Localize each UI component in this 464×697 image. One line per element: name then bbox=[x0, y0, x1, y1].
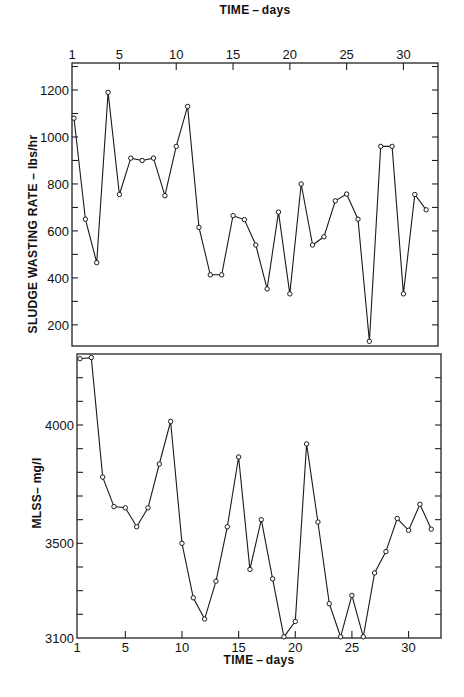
data-point-marker bbox=[406, 528, 410, 532]
data-point-marker bbox=[248, 567, 252, 571]
data-point-marker bbox=[242, 217, 246, 221]
data-point-marker bbox=[72, 116, 76, 120]
y-tick-label: 4000 bbox=[45, 418, 74, 433]
data-point-marker bbox=[270, 577, 274, 581]
y-tick-label: 1200 bbox=[40, 83, 69, 98]
data-point-marker bbox=[197, 225, 201, 229]
data-point-marker bbox=[89, 355, 93, 359]
data-point-marker bbox=[413, 192, 417, 196]
data-point-marker bbox=[288, 292, 292, 296]
x-tick-label: 30 bbox=[401, 640, 415, 655]
x-tick-label: 20 bbox=[283, 47, 297, 62]
x-tick-label: 5 bbox=[122, 640, 129, 655]
x-tick-label: 10 bbox=[175, 640, 189, 655]
x-tick-label: 1 bbox=[68, 47, 75, 62]
plot-frame bbox=[77, 354, 441, 638]
data-series-line bbox=[74, 92, 426, 341]
data-point-marker bbox=[78, 357, 82, 361]
y-tick-label: 3100 bbox=[45, 631, 74, 646]
data-point-marker bbox=[163, 193, 167, 197]
data-point-marker bbox=[304, 442, 308, 446]
data-point-marker bbox=[282, 635, 286, 639]
data-point-marker bbox=[418, 502, 422, 506]
data-point-marker bbox=[265, 287, 269, 291]
data-point-marker bbox=[83, 217, 87, 221]
data-point-marker bbox=[379, 144, 383, 148]
top-x-axis-label: TIME – days bbox=[220, 3, 291, 17]
data-point-marker bbox=[214, 579, 218, 583]
data-point-marker bbox=[168, 419, 172, 423]
data-point-marker bbox=[401, 292, 405, 296]
data-point-marker bbox=[129, 156, 133, 160]
x-tick-label: 5 bbox=[116, 47, 123, 62]
data-point-marker bbox=[338, 635, 342, 639]
data-point-marker bbox=[231, 213, 235, 217]
data-point-marker bbox=[390, 144, 394, 148]
data-point-marker bbox=[322, 235, 326, 239]
y-tick-label: 1000 bbox=[40, 130, 69, 145]
data-point-marker bbox=[202, 617, 206, 621]
data-point-marker bbox=[254, 243, 258, 247]
data-point-marker bbox=[259, 517, 263, 521]
data-point-marker bbox=[219, 273, 223, 277]
data-point-marker bbox=[236, 455, 240, 459]
data-point-marker bbox=[310, 243, 314, 247]
data-point-marker bbox=[344, 192, 348, 196]
data-point-marker bbox=[293, 619, 297, 623]
y-tick-label: 600 bbox=[47, 224, 69, 239]
sludge-wasting-rate-panel: 15101520253020040060080010001200 bbox=[40, 47, 438, 346]
data-point-marker bbox=[106, 90, 110, 94]
data-point-marker bbox=[350, 593, 354, 597]
data-point-marker bbox=[361, 635, 365, 639]
y-tick-label: 800 bbox=[47, 177, 69, 192]
data-series-line bbox=[80, 358, 431, 637]
data-point-marker bbox=[208, 273, 212, 277]
x-tick-label: 15 bbox=[226, 47, 240, 62]
data-point-marker bbox=[100, 475, 104, 479]
data-point-marker bbox=[429, 527, 433, 531]
bottom-y-axis-label: MLSS– mg/l bbox=[30, 457, 44, 528]
data-point-marker bbox=[134, 525, 138, 529]
y-tick-label: 3500 bbox=[45, 536, 74, 551]
x-tick-label: 25 bbox=[339, 47, 353, 62]
data-point-marker bbox=[180, 541, 184, 545]
data-point-marker bbox=[151, 156, 155, 160]
plot-frame bbox=[72, 63, 438, 346]
data-point-marker bbox=[327, 601, 331, 605]
data-point-marker bbox=[299, 182, 303, 186]
data-point-marker bbox=[395, 516, 399, 520]
data-point-marker bbox=[276, 210, 280, 214]
mlss-panel: 151015202530310035004000 bbox=[45, 354, 441, 655]
y-tick-label: 200 bbox=[47, 318, 69, 333]
data-point-marker bbox=[117, 192, 121, 196]
y-tick-label: 400 bbox=[47, 271, 69, 286]
data-point-marker bbox=[384, 549, 388, 553]
data-point-marker bbox=[424, 208, 428, 212]
data-point-marker bbox=[367, 339, 371, 343]
x-tick-label: 10 bbox=[169, 47, 183, 62]
data-point-marker bbox=[372, 571, 376, 575]
figure: 15101520253020040060080010001200 1510152… bbox=[0, 0, 464, 697]
data-point-marker bbox=[140, 158, 144, 162]
data-point-marker bbox=[191, 596, 195, 600]
x-tick-label: 1 bbox=[73, 640, 80, 655]
data-point-marker bbox=[112, 504, 116, 508]
data-point-marker bbox=[174, 144, 178, 148]
data-point-marker bbox=[157, 462, 161, 466]
data-point-marker bbox=[356, 217, 360, 221]
data-point-marker bbox=[95, 260, 99, 264]
data-point-marker bbox=[123, 506, 127, 510]
chart-canvas: 15101520253020040060080010001200 1510152… bbox=[0, 0, 464, 697]
data-point-marker bbox=[316, 520, 320, 524]
top-y-axis-label: SLUDGE WASTING RATE – lbs/hr bbox=[26, 135, 40, 334]
x-tick-label: 30 bbox=[396, 47, 410, 62]
data-point-marker bbox=[333, 199, 337, 203]
bottom-x-axis-label: TIME – days bbox=[224, 653, 295, 667]
data-point-marker bbox=[146, 506, 150, 510]
data-point-marker bbox=[225, 525, 229, 529]
x-tick-label: 25 bbox=[345, 640, 359, 655]
data-point-marker bbox=[185, 104, 189, 108]
